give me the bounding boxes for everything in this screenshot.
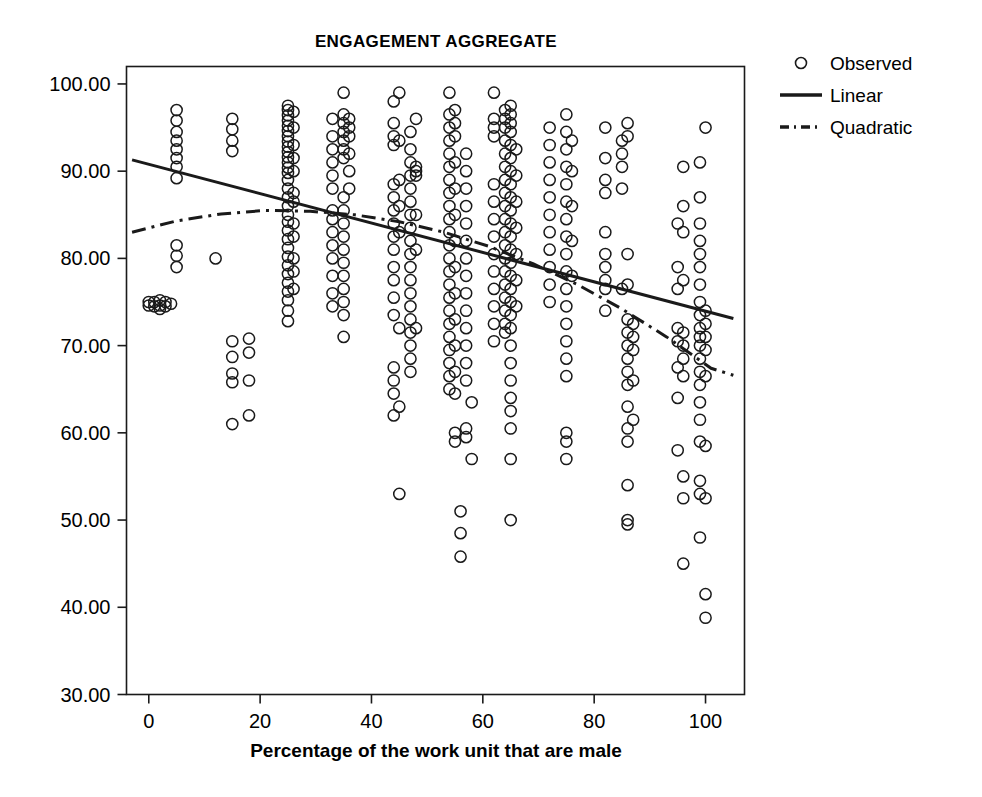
x-tick-label: 100 bbox=[689, 710, 722, 732]
x-tick-label: 20 bbox=[249, 710, 271, 732]
legend-item-label: Observed bbox=[830, 53, 912, 74]
legend-item-label: Linear bbox=[830, 85, 883, 106]
chart-container: ENGAGEMENT AGGREGATE 30.0040.0050.0060.0… bbox=[0, 0, 982, 797]
y-tick-label: 90.00 bbox=[60, 160, 110, 182]
legend-item-label: Quadratic bbox=[830, 117, 912, 138]
y-tick-label: 70.00 bbox=[60, 335, 110, 357]
x-tick-label: 60 bbox=[472, 710, 494, 732]
x-tick-label: 80 bbox=[583, 710, 605, 732]
x-axis-title: Percentage of the work unit that are mal… bbox=[250, 740, 622, 761]
y-tick-label: 100.00 bbox=[49, 73, 110, 95]
y-tick-label: 40.00 bbox=[60, 596, 110, 618]
x-tick-label: 40 bbox=[360, 710, 382, 732]
y-tick-label: 60.00 bbox=[60, 422, 110, 444]
chart-title: ENGAGEMENT AGGREGATE bbox=[315, 32, 557, 51]
y-tick-label: 50.00 bbox=[60, 509, 110, 531]
x-tick-label: 0 bbox=[143, 710, 154, 732]
y-tick-label: 80.00 bbox=[60, 247, 110, 269]
engagement-aggregate-scatter-plot: ENGAGEMENT AGGREGATE 30.0040.0050.0060.0… bbox=[0, 0, 982, 797]
y-tick-label: 30.00 bbox=[60, 684, 110, 706]
